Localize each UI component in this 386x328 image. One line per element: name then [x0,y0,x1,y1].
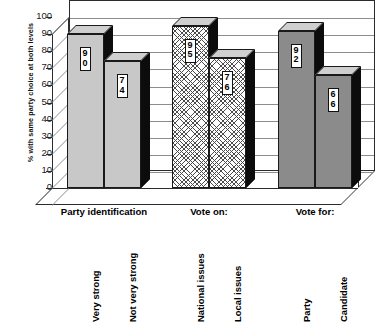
y-tick-mark [46,34,52,35]
category-label: Local issues [232,266,243,322]
y-tick-label: 20 [26,148,52,158]
y-tick-label: 60 [26,79,52,89]
y-tick-label: 100 [26,11,52,21]
y-tick-mark [46,51,52,52]
y-tick-mark [46,103,52,104]
y-tick-mark [46,171,52,172]
bar-value-label: 9 2 [291,44,302,68]
y-tick-label: 80 [26,45,52,55]
y-tick-label: 70 [26,62,52,72]
y-tick-label: 10 [26,165,52,175]
bar-side-face [352,66,361,188]
bar-value-label: 7 4 [117,74,128,98]
bar-value-label: 7 6 [222,71,233,95]
category-label: Party [301,299,312,322]
y-tick-mark [46,17,52,18]
y-tick-mark [46,120,52,121]
bar-value-label: 9 0 [80,47,91,71]
y-tick-mark [46,154,52,155]
gridline [70,35,374,36]
category-label: Candidate [338,277,349,322]
bar-value-label: 6 6 [328,88,339,112]
y-tick-label: 40 [26,114,52,124]
y-tick-mark [46,68,52,69]
plot-box-floor [35,188,358,205]
y-tick-mark [46,188,52,189]
bar-value-label: 9 5 [185,39,196,63]
y-tick-mark [46,137,52,138]
bar-side-face [246,49,255,188]
y-tick-label: 50 [26,97,52,107]
bar-side-face [141,52,150,188]
y-tick-label: 30 [26,131,52,141]
plot-box-front-edge [52,188,358,189]
y-tick-label: 0 [26,182,52,192]
category-label: Not very strong [127,253,138,322]
y-tick-mark [46,85,52,86]
group-header: Vote for: [235,206,386,217]
category-label: National issues [195,253,206,322]
y-tick-label: 90 [26,28,52,38]
y-axis-ticks: 1009080706050403020100 [0,0,52,328]
gridline [70,18,374,19]
bar-chart: % with same party choice at both levels … [0,0,386,328]
category-label: Very strong [90,270,101,322]
